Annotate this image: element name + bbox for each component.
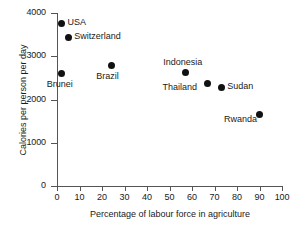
y-tick-mark <box>51 143 57 144</box>
x-tick-label: 90 <box>248 192 272 202</box>
data-point <box>58 20 65 27</box>
x-tick-label: 0 <box>45 192 69 202</box>
y-tick-mark <box>51 100 57 101</box>
data-point-label: Indonesia <box>163 57 202 67</box>
y-axis-line <box>57 13 58 187</box>
x-tick-mark <box>192 186 193 191</box>
y-axis-title: Calories per person per day <box>18 15 28 185</box>
scatter-chart: 01000200030004000 0102030405060708090100… <box>0 0 292 228</box>
x-tick-label: 80 <box>225 192 249 202</box>
y-tick-mark <box>51 13 57 14</box>
data-point <box>182 69 189 76</box>
x-tick-label: 100 <box>270 192 292 202</box>
data-point-label: USA <box>68 17 87 27</box>
x-tick-mark <box>57 186 58 191</box>
x-tick-mark <box>237 186 238 191</box>
x-tick-label: 50 <box>158 192 182 202</box>
x-axis-title: Percentage of labour force in agricultur… <box>57 209 283 219</box>
y-tick-mark <box>51 56 57 57</box>
data-point <box>58 70 65 77</box>
x-tick-mark <box>102 186 103 191</box>
x-tick-mark <box>170 186 171 191</box>
data-point <box>65 34 72 41</box>
x-tick-label: 70 <box>203 192 227 202</box>
x-tick-mark <box>215 186 216 191</box>
x-tick-mark <box>260 186 261 191</box>
x-tick-mark <box>80 186 81 191</box>
data-point <box>108 62 115 69</box>
data-point-label: Sudan <box>227 81 253 91</box>
x-tick-label: 20 <box>90 192 114 202</box>
x-tick-label: 10 <box>68 192 92 202</box>
data-point <box>204 80 211 87</box>
data-point <box>218 84 225 91</box>
data-point-label: Brazil <box>96 71 119 81</box>
x-tick-label: 60 <box>180 192 204 202</box>
data-point-label: Brunei <box>47 79 73 89</box>
x-tick-label: 30 <box>113 192 137 202</box>
x-tick-label: 40 <box>135 192 159 202</box>
data-point-label: Thailand <box>163 82 198 92</box>
x-tick-mark <box>147 186 148 191</box>
x-tick-mark <box>125 186 126 191</box>
data-point-label: Rwanda <box>224 114 257 124</box>
x-tick-mark <box>282 186 283 191</box>
data-point-label: Switzerland <box>74 31 121 41</box>
